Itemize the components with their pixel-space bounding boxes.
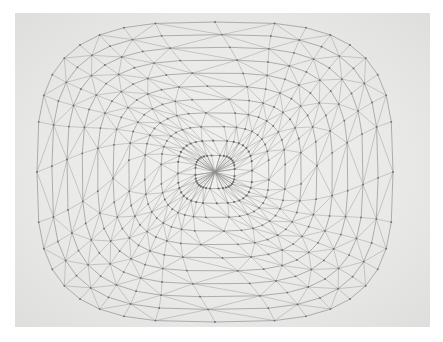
- grid-line: [235, 156, 251, 169]
- grid-line: [309, 215, 314, 227]
- grid-node: [166, 140, 168, 142]
- grid-line: [162, 282, 193, 284]
- grid-node: [317, 242, 319, 244]
- grid-node: [281, 249, 283, 251]
- grid-line: [238, 257, 251, 271]
- grid-line: [213, 141, 220, 156]
- grid-line: [278, 229, 286, 235]
- grid-line: [133, 132, 150, 136]
- grid-line: [190, 127, 201, 128]
- grid-line: [64, 276, 76, 286]
- grid-node: [137, 121, 139, 123]
- grid-node: [113, 144, 115, 146]
- grid-line: [341, 235, 357, 239]
- grid-node: [182, 129, 184, 131]
- grid-line: [339, 56, 365, 58]
- grid-line: [154, 61, 180, 64]
- grid-line: [331, 79, 342, 91]
- grid-line: [163, 193, 165, 200]
- grid-node: [254, 242, 256, 244]
- grid-line: [237, 49, 269, 60]
- grid-node: [228, 157, 230, 159]
- grid-line: [105, 101, 112, 113]
- grid-line: [161, 154, 162, 164]
- grid-line: [313, 115, 326, 127]
- grid-node: [113, 201, 115, 203]
- grid-node: [338, 103, 340, 105]
- grid-node: [118, 74, 120, 76]
- grid-line: [267, 151, 268, 160]
- grid-line: [138, 115, 144, 123]
- grid-node: [79, 44, 81, 46]
- grid-node: [134, 67, 136, 69]
- grid-line: [187, 271, 193, 284]
- grid-line: [100, 309, 124, 316]
- grid-line: [39, 95, 44, 122]
- grid-node: [209, 187, 211, 189]
- grid-node: [147, 93, 149, 95]
- grid-line: [276, 266, 282, 281]
- grid-line: [163, 255, 165, 269]
- grid-node: [233, 178, 235, 180]
- grid-node: [268, 48, 270, 50]
- grid-node: [99, 308, 101, 310]
- grid-line: [330, 35, 350, 45]
- grid-node: [100, 275, 102, 277]
- grid-node: [58, 100, 60, 102]
- grid-line: [348, 185, 363, 191]
- grid-line: [259, 208, 270, 221]
- grid-line: [297, 213, 314, 215]
- grid-line: [260, 293, 287, 296]
- grid-line: [155, 128, 171, 136]
- grid-node: [231, 160, 233, 162]
- grid-node: [116, 216, 118, 218]
- grid-node: [232, 181, 234, 183]
- grid-line: [330, 131, 332, 153]
- grid-node: [147, 203, 149, 205]
- grid-node: [222, 187, 224, 189]
- grid-line: [201, 231, 224, 245]
- grid-line: [100, 35, 110, 46]
- grid-line: [183, 245, 201, 258]
- grid-line: [378, 75, 387, 96]
- grid-line: [67, 127, 84, 159]
- grid-node: [144, 264, 146, 266]
- grid-node: [195, 201, 197, 203]
- grid-line: [131, 251, 150, 259]
- grid-line: [152, 212, 157, 218]
- grid-line: [89, 109, 105, 113]
- grid-line: [224, 230, 242, 231]
- grid-line: [386, 222, 391, 249]
- grid-node: [91, 75, 93, 77]
- grid-node: [296, 212, 298, 214]
- grid-node: [274, 320, 276, 322]
- grid-line: [311, 268, 338, 269]
- grid-line: [285, 189, 300, 201]
- grid-line: [349, 239, 357, 256]
- grid-line: [284, 150, 301, 153]
- grid-line: [324, 249, 334, 261]
- grid-line: [147, 144, 164, 147]
- grid-line: [152, 109, 167, 119]
- grid-node: [242, 73, 244, 75]
- grid-line: [237, 127, 246, 129]
- grid-line: [206, 113, 224, 127]
- grid-line: [124, 28, 133, 40]
- grid-line: [155, 309, 208, 320]
- grid-node: [95, 94, 97, 96]
- grid-line: [148, 94, 163, 105]
- grid-line: [260, 281, 276, 296]
- grid-node: [179, 60, 181, 62]
- grid-line: [179, 87, 229, 99]
- grid-line: [308, 279, 325, 287]
- grid-line: [37, 166, 52, 172]
- grid-line: [154, 48, 170, 63]
- grid-line: [91, 240, 99, 253]
- grid-line: [299, 72, 306, 85]
- grid-node: [343, 120, 345, 122]
- grid-node: [308, 252, 310, 254]
- grid-line: [82, 148, 98, 153]
- grid-line: [54, 101, 59, 125]
- grid-line: [280, 93, 283, 112]
- grid-line: [299, 127, 313, 139]
